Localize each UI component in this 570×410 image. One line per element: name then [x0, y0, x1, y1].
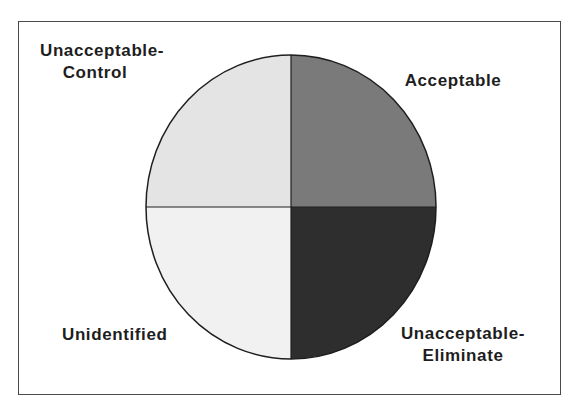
label-unacceptable-eliminate: Unacceptable- Eliminate [398, 323, 528, 367]
slice-unacceptable-control [146, 55, 291, 207]
label-line: Unidentified [62, 324, 184, 346]
label-acceptable: Acceptable [398, 70, 508, 92]
label-line: Acceptable [398, 70, 508, 92]
label-unacceptable-control: Unacceptable- Control [40, 40, 150, 84]
label-line: Unacceptable- [40, 40, 150, 62]
label-line: Control [40, 62, 150, 84]
label-line: Unacceptable- [398, 323, 528, 345]
label-line: Eliminate [398, 345, 528, 367]
label-unidentified: Unidentified [62, 324, 184, 346]
